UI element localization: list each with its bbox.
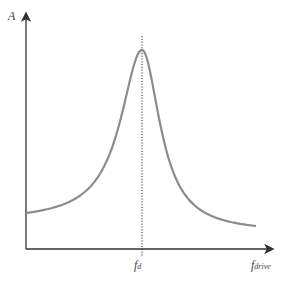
resonance-chart — [0, 0, 290, 286]
amplitude-curve — [26, 50, 256, 226]
fd-label: fd — [134, 258, 141, 273]
x-axis-label: fdrive — [251, 258, 271, 273]
x-axis-sub: drive — [254, 262, 270, 271]
y-axis-label: A — [8, 9, 15, 24]
fd-sub: d — [137, 262, 141, 271]
